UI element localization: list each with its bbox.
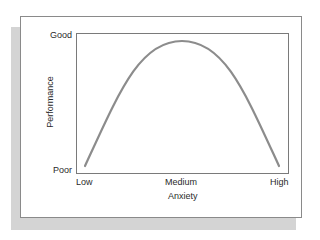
plot-box: [77, 34, 289, 174]
y-tick-good: Good: [50, 30, 72, 40]
y-axis-label: Performance: [45, 62, 55, 142]
x-tick-low: Low: [76, 177, 93, 187]
x-tick-medium: Medium: [165, 177, 197, 187]
x-axis-label: Anxiety: [168, 191, 198, 201]
x-tick-high: High: [270, 177, 289, 187]
y-tick-poor: Poor: [53, 165, 72, 175]
performance-curve: [85, 41, 279, 166]
